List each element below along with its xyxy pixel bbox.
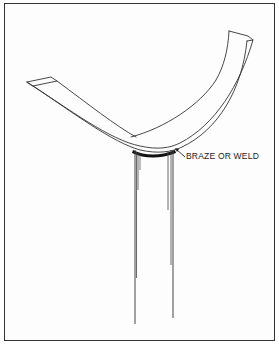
- leader-line: [175, 148, 185, 157]
- bar-lower-edge: [33, 41, 247, 152]
- right-bar-end: [229, 31, 253, 41]
- bar-outer-edge: [27, 40, 253, 148]
- vertical-rod: [135, 150, 173, 324]
- curved-bar-drawing: [0, 0, 279, 346]
- bar-inner-top: [131, 31, 229, 137]
- braze-or-weld-label: BRAZE OR WELD: [186, 151, 259, 161]
